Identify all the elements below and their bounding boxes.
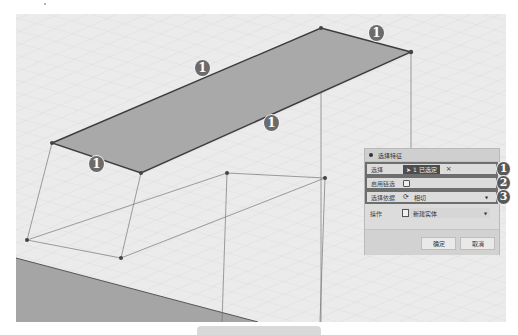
operation-value: 新建实体	[413, 209, 437, 218]
selection-count: 1 已选定	[413, 165, 437, 174]
dialog-footer: 确定 取消	[365, 229, 499, 255]
ok-button[interactable]: 确定	[421, 237, 456, 250]
operation-label: 操作	[365, 209, 402, 218]
selection-basis-row: 选择依据 ⟳ 相切 ▼	[366, 191, 497, 203]
select-features-dialog: 选择特征 选择 ➤ 1 已选定 × 启用链选 选择依据 ⟳ 相切 ▼ 操作 新建…	[364, 148, 500, 255]
new-body-icon	[402, 209, 409, 217]
edge-callout-4: 1	[89, 156, 104, 172]
clear-selection-icon[interactable]: ×	[446, 165, 452, 173]
chain-select-row: 启用链选	[366, 177, 497, 189]
edge-callout-3: 1	[264, 115, 279, 131]
edge-callout-2: 1	[369, 25, 384, 41]
selection-basis-label: 选择依据	[366, 193, 403, 202]
selection-basis-dropdown[interactable]: ⟳ 相切 ▼	[403, 192, 491, 202]
bottom-toolbar-tab[interactable]	[197, 326, 321, 335]
selection-basis-value: 相切	[414, 193, 426, 202]
cursor-arrow-icon: ➤	[406, 166, 411, 173]
chain-select-label: 启用链选	[366, 179, 403, 188]
cancel-button[interactable]: 取消	[460, 237, 495, 250]
dialog-title: 选择特征	[378, 151, 402, 160]
row-callout-1: 1	[497, 162, 510, 176]
chain-select-checkbox[interactable]	[403, 180, 410, 187]
operation-row: 操作 新建实体 ▼	[365, 207, 497, 219]
artifact-dot	[44, 3, 46, 5]
row-callout-2: 2	[497, 176, 510, 190]
selection-button[interactable]: ➤ 1 已选定	[403, 165, 440, 174]
edge-callout-1: 1	[195, 60, 210, 76]
operation-dropdown[interactable]: 新建实体 ▼	[402, 208, 490, 218]
selection-row: 选择 ➤ 1 已选定 ×	[366, 163, 497, 175]
tangent-chain-icon: ⟳	[403, 194, 410, 201]
chevron-down-icon: ▼	[484, 211, 487, 216]
selection-label: 选择	[366, 165, 403, 174]
dialog-title-bar[interactable]: 选择特征	[365, 149, 499, 162]
chevron-down-icon: ▼	[485, 195, 488, 200]
row-callout-3: 3	[497, 190, 510, 204]
dialog-status-icon	[369, 153, 373, 157]
